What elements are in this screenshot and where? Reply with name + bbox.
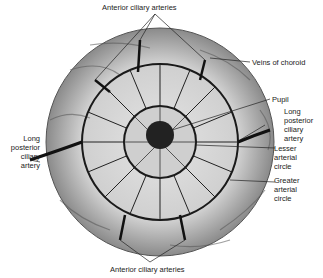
- label-line: artery: [284, 134, 313, 143]
- label-veins-of-choroid: Veins of choroid: [252, 58, 305, 67]
- label-line: posterior: [284, 116, 313, 125]
- label-line: Greater: [274, 176, 299, 185]
- label-line: ciliary: [2, 152, 40, 161]
- label-line: ciliary: [284, 125, 313, 134]
- label-line: posterior: [2, 143, 40, 152]
- label-line: Long: [2, 134, 40, 143]
- label-line: circle: [274, 162, 297, 171]
- label-line: Lesser: [274, 144, 297, 153]
- label-line: artery: [2, 161, 40, 170]
- label-greater-arterial-circle: Greater arterial circle: [274, 176, 299, 203]
- label-anterior-ciliary-bottom: Anterior ciliary arteries: [110, 265, 185, 274]
- label-anterior-ciliary-top: Anterior ciliary arteries: [102, 3, 177, 12]
- label-line: arterial: [274, 185, 299, 194]
- pupil: [146, 121, 174, 149]
- label-line: circle: [274, 194, 299, 203]
- label-long-posterior-ciliary-left: Long posterior ciliary artery: [2, 134, 40, 170]
- iris-vasculature-diagram: [0, 0, 323, 278]
- label-lesser-arterial-circle: Lesser arterial circle: [274, 144, 297, 171]
- label-line: arterial: [274, 153, 297, 162]
- label-pupil: Pupil: [272, 95, 289, 104]
- label-long-posterior-ciliary-right: Long posterior ciliary artery: [284, 107, 313, 143]
- label-line: Long: [284, 107, 313, 116]
